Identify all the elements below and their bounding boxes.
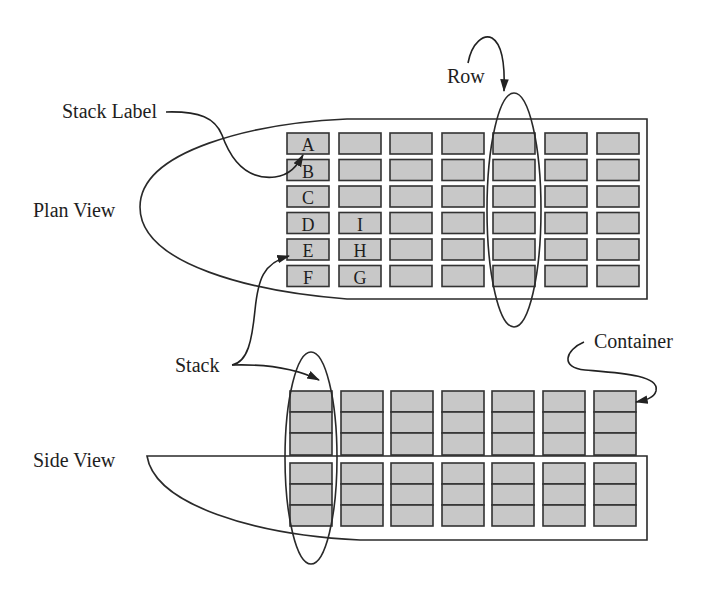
container	[543, 412, 585, 433]
container	[594, 463, 636, 484]
container	[391, 463, 433, 484]
deck-stacks	[290, 391, 636, 455]
container-slot	[390, 160, 432, 181]
container-slot	[597, 213, 639, 234]
container-annotation-label: Container	[594, 330, 673, 352]
container-slot	[390, 266, 432, 287]
stack-annotation-label: Stack	[175, 354, 219, 376]
container-slot	[493, 239, 535, 260]
container	[442, 463, 484, 484]
container	[290, 505, 332, 526]
container	[594, 433, 636, 455]
container-slot	[493, 266, 535, 287]
container	[594, 391, 636, 412]
stack-label-h: H	[354, 241, 367, 261]
container	[391, 412, 433, 433]
container	[492, 433, 534, 455]
container-slot	[493, 160, 535, 181]
container	[391, 484, 433, 505]
diagram-canvas: A B C D E F I H G Plan View	[0, 0, 716, 595]
container-slot	[597, 160, 639, 181]
container	[341, 484, 383, 505]
row-annotation-label: Row	[447, 65, 485, 87]
stack-label-arrow-icon	[166, 112, 303, 177]
container	[391, 391, 433, 412]
stack-label-g: G	[354, 268, 367, 288]
stack-plan-arrow-icon	[232, 256, 289, 365]
container-slot	[390, 213, 432, 234]
container	[543, 463, 585, 484]
container	[442, 484, 484, 505]
container	[442, 391, 484, 412]
stack-label-a: A	[302, 135, 315, 155]
stack-highlight-ellipse	[285, 352, 337, 564]
container	[341, 391, 383, 412]
stack-label-c: C	[302, 188, 314, 208]
container-slot	[597, 266, 639, 287]
container	[543, 391, 585, 412]
container-slot	[545, 239, 587, 260]
container	[341, 505, 383, 526]
container	[391, 505, 433, 526]
container	[442, 505, 484, 526]
container	[543, 505, 585, 526]
container-slot	[597, 186, 639, 207]
hold-stacks	[290, 463, 636, 526]
container	[594, 505, 636, 526]
container	[594, 484, 636, 505]
container-slot	[339, 160, 381, 181]
container	[391, 433, 433, 455]
container-slot	[339, 186, 381, 207]
side-view: Side View	[33, 352, 647, 564]
container-slot	[493, 213, 535, 234]
container	[492, 505, 534, 526]
container-slot	[493, 133, 535, 154]
container	[290, 391, 332, 412]
container	[341, 433, 383, 455]
plan-view-grid	[287, 133, 639, 287]
container	[290, 412, 332, 433]
container-slot	[545, 266, 587, 287]
container-slot	[597, 239, 639, 260]
container	[442, 412, 484, 433]
container-slot	[442, 239, 484, 260]
stack-label-d: D	[302, 215, 315, 235]
container-slot	[545, 133, 587, 154]
container-slot	[390, 186, 432, 207]
container-slot	[597, 133, 639, 154]
container-slot	[442, 133, 484, 154]
container-slot	[442, 266, 484, 287]
container-slot	[442, 213, 484, 234]
container	[341, 412, 383, 433]
container-slot	[390, 133, 432, 154]
container-slot	[442, 186, 484, 207]
container	[442, 433, 484, 455]
stack-label-e: E	[303, 241, 314, 261]
container	[492, 391, 534, 412]
container	[341, 463, 383, 484]
row-highlight-ellipse	[487, 93, 541, 327]
stack-label-b: B	[302, 162, 314, 182]
container-slot	[390, 239, 432, 260]
container-slot	[493, 186, 535, 207]
container-ship-stowage-diagram: A B C D E F I H G Plan View	[0, 0, 716, 595]
container	[543, 433, 585, 455]
container-slot	[545, 213, 587, 234]
container	[290, 433, 332, 455]
container	[290, 484, 332, 505]
stack-label-i: I	[357, 215, 363, 235]
stack-label-annotation: Stack Label	[62, 100, 157, 122]
side-view-title: Side View	[33, 449, 116, 471]
container-slot	[545, 186, 587, 207]
container-slot	[442, 160, 484, 181]
container	[290, 463, 332, 484]
container	[492, 484, 534, 505]
container-slot	[545, 160, 587, 181]
container	[543, 484, 585, 505]
stack-side-arrow-icon	[232, 365, 319, 380]
plan-view: A B C D E F I H G Plan View	[33, 93, 647, 327]
container-slot	[339, 133, 381, 154]
container	[594, 412, 636, 433]
stack-label-f: F	[303, 268, 313, 288]
plan-view-title: Plan View	[33, 199, 116, 221]
